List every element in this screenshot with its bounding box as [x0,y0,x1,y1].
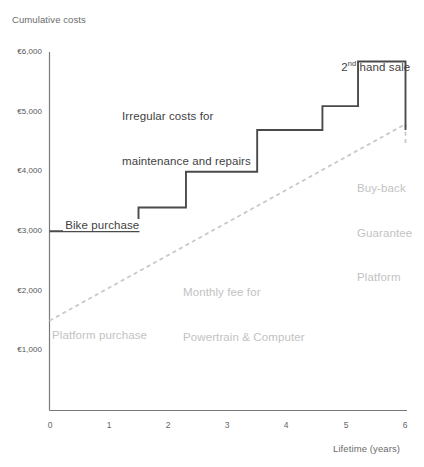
annotation-monthly-fee-line1: Monthly fee for [183,285,305,300]
annotation-second-hand-sale-ordinal: nd [348,59,357,68]
annotation-second-hand-sale-rest: hand sale [356,61,410,73]
annotation-irregular-costs-line1: Irregular costs for [122,109,251,124]
annotation-second-hand-sale: 2nd hand sale [328,45,410,89]
annotation-bike-purchase: Bike purchase [50,203,141,247]
annotation-platform-purchase: Platform purchase [52,328,147,343]
annotation-bike-purchase-text: Bike purchase [63,219,141,231]
annotation-monthly-fee-line2: Powertrain & Computer [183,330,305,345]
annotation-buy-back-guarantee: Buy-back Guarantee Platform [357,152,412,314]
annotation-buy-back-line1: Buy-back [357,181,412,196]
annotation-irregular-costs: Irregular costs for maintenance and repa… [122,80,251,198]
annotation-monthly-fee: Monthly fee for Powertrain & Computer [183,256,305,374]
cumulative-costs-chart: Cumulative costs Lifetime (years) €6,000… [0,0,424,467]
annotation-buy-back-line2: Guarantee [357,226,412,241]
annotation-buy-back-line3: Platform [357,270,412,285]
annotation-irregular-costs-line2: maintenance and repairs [122,154,251,169]
